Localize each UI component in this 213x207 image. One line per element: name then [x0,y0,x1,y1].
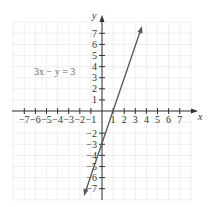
y-tick-label: 5 [92,50,97,61]
y-tick-label: 1 [92,94,97,105]
y-tick-label: −4 [86,150,97,161]
y-tick-label: 4 [92,61,97,72]
x-axis-label: x [197,111,203,122]
x-tick-label: −6 [30,114,41,125]
y-axis-label: y [91,10,97,21]
equation-label: 3x − y = 3 [34,66,75,77]
y-tick-label: 2 [92,83,97,94]
x-tick-label: −4 [52,114,63,125]
coordinate-plane: −7−6−5−4−3−2−11234567 7654321−2−3−4−5−6−… [0,0,213,207]
x-axis [12,109,198,114]
y-axis [100,15,105,200]
x-tick-label: 7 [177,114,182,125]
x-tick-label: −3 [63,114,74,125]
y-tick-label: −2 [86,128,97,139]
x-tick-label: 4 [144,114,149,125]
y-tick-label: −3 [86,139,97,150]
arrow-up-icon [138,26,143,34]
y-tick-label: 7 [92,28,97,39]
x-tick-label: 6 [166,114,171,125]
x-tick-label: −5 [41,114,52,125]
x-tick-label: 2 [122,114,127,125]
y-tick-label: 6 [92,39,97,50]
x-tick-label: 5 [155,114,160,125]
x-tick-label: −7 [19,114,30,125]
x-tick-label: 3 [133,114,138,125]
y-tick-label: 3 [92,72,97,83]
x-tick-label: −1 [86,114,97,125]
x-tick-label: −2 [74,114,85,125]
